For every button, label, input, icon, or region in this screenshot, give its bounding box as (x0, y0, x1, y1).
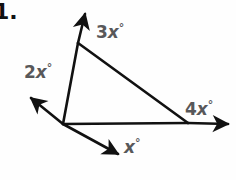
figure-canvas: 1. 3x° 2x° 4x° x° (0, 0, 236, 180)
triangle-base (63, 123, 188, 124)
angle-label-4x-text: 4 (185, 99, 197, 119)
ray-right-icon (188, 123, 228, 124)
angle-label-x-variable: x (124, 137, 135, 157)
problem-number: 1. (0, 1, 18, 23)
degree-icon: ° (119, 21, 125, 34)
angle-label-3x-text: 3 (96, 22, 108, 42)
angle-label-4x: 4x° (185, 99, 213, 118)
angle-label-2x-variable: x (36, 62, 47, 82)
angle-label-3x-variable: x (108, 22, 119, 42)
ray-up-left-icon (31, 98, 63, 124)
triangle-side-apex-to-left (63, 43, 78, 124)
angle-label-2x-text: 2 (24, 62, 36, 82)
angle-label-x: x° (124, 137, 140, 156)
triangle-side-apex-to-right (78, 43, 188, 123)
degree-icon: ° (47, 61, 53, 74)
degree-icon: ° (135, 136, 141, 149)
ray-down-right-icon (63, 124, 118, 154)
degree-icon: ° (208, 98, 214, 111)
angle-label-2x: 2x° (24, 62, 52, 81)
angle-label-4x-variable: x (197, 99, 208, 119)
angle-label-3x: 3x° (96, 22, 124, 41)
ray-up-icon (78, 14, 85, 43)
